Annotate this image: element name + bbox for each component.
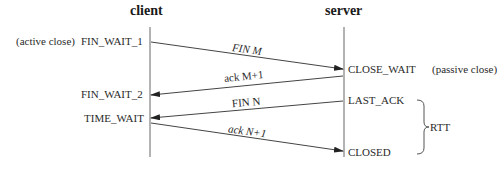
message-prefix: ack: [223, 70, 239, 83]
client-state-fin-wait-2: FIN_WAIT_2: [81, 89, 143, 100]
rtt-label: RTT: [430, 122, 450, 133]
client-header: client: [130, 4, 163, 18]
message-prefix: ack: [227, 122, 244, 136]
server-state-close-wait: CLOSE_WAIT: [348, 64, 416, 75]
passive-close-note: (passive close): [432, 64, 497, 75]
client-state-fin-wait-1: FIN_WAIT_1: [81, 36, 143, 47]
message-prefix: FIN: [231, 41, 250, 55]
active-close-note: (active close): [16, 36, 75, 47]
message-value: M: [252, 44, 263, 57]
message-value: M+1: [241, 68, 264, 82]
server-header: server: [325, 4, 362, 18]
client-state-time-wait: TIME_WAIT: [84, 113, 144, 124]
tcp-close-diagram: client server (active close) FIN_WAIT_1 …: [0, 0, 504, 170]
message-prefix: FIN: [231, 96, 250, 109]
server-state-closed: CLOSED: [348, 147, 391, 158]
message-value: N: [252, 95, 261, 108]
server-state-last-ack: LAST_ACK: [348, 95, 404, 106]
rtt-brace: [417, 100, 429, 154]
diagram-lines: [0, 0, 504, 170]
